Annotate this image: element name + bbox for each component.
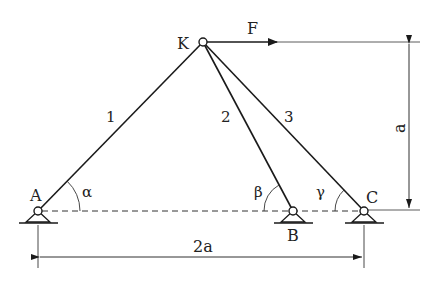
member-1 bbox=[38, 42, 203, 211]
label-member-3: 3 bbox=[284, 108, 294, 126]
label-dimension-a: a bbox=[390, 123, 409, 133]
angle-arc-alpha bbox=[67, 181, 80, 211]
label-A: A bbox=[29, 186, 42, 205]
truss-diagram: K F A B C 1 2 3 α β γ 2a a bbox=[0, 0, 433, 282]
angle-arc-gamma bbox=[335, 190, 344, 211]
label-beta: β bbox=[254, 183, 263, 201]
label-member-1: 1 bbox=[106, 108, 116, 126]
label-gamma: γ bbox=[316, 183, 325, 201]
label-F: F bbox=[247, 19, 258, 38]
member-3 bbox=[203, 42, 364, 211]
member-2 bbox=[203, 42, 293, 211]
label-C: C bbox=[366, 188, 378, 207]
support-B bbox=[274, 207, 313, 223]
label-member-2: 2 bbox=[221, 108, 231, 126]
angle-arc-beta bbox=[264, 185, 279, 211]
label-alpha: α bbox=[82, 183, 92, 201]
support-C bbox=[345, 207, 384, 223]
label-K: K bbox=[177, 34, 190, 53]
label-dimension-2a: 2a bbox=[193, 237, 213, 256]
node-K bbox=[199, 38, 207, 46]
support-A bbox=[19, 207, 58, 223]
label-B: B bbox=[287, 226, 299, 245]
